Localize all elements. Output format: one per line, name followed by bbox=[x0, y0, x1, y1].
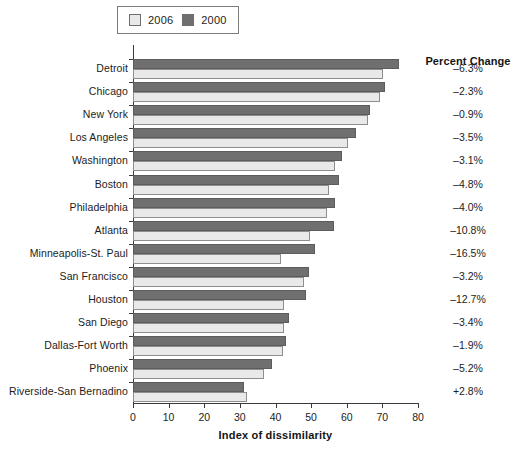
bar-2000 bbox=[133, 105, 370, 115]
percent-change-value: –4.0% bbox=[420, 201, 516, 213]
x-axis-tick-label: 80 bbox=[412, 411, 424, 423]
bar-group bbox=[133, 267, 418, 287]
percent-change-value: –4.8% bbox=[420, 178, 516, 190]
x-axis-tick bbox=[311, 403, 312, 408]
bar-2000 bbox=[133, 244, 315, 254]
legend-label-2006: 2006 bbox=[148, 14, 173, 26]
category-label: Riverside-San Bernadino bbox=[3, 385, 128, 397]
x-axis-tick bbox=[418, 403, 419, 408]
category-label: Detroit bbox=[3, 62, 128, 74]
percent-change-value: –6.3% bbox=[420, 62, 516, 74]
legend-entry-2000: 2000 bbox=[182, 14, 226, 26]
category-label: Atlanta bbox=[3, 224, 128, 236]
x-axis-tick bbox=[382, 403, 383, 408]
percent-change-value: –0.9% bbox=[420, 108, 516, 120]
category-label: San Diego bbox=[3, 316, 128, 328]
x-axis-tick-label: 0 bbox=[130, 411, 136, 423]
percent-change-column: Percent Change –6.3%–2.3%–0.9%–3.5%–3.1%… bbox=[420, 45, 518, 403]
category-label: Los Angeles bbox=[3, 131, 128, 143]
category-label: Minneapolis-St. Paul bbox=[3, 247, 128, 259]
bar-2006 bbox=[133, 115, 368, 125]
percent-change-value: –3.1% bbox=[420, 154, 516, 166]
legend-entry-2006: 2006 bbox=[129, 14, 173, 26]
percent-change-value: –3.2% bbox=[420, 270, 516, 282]
x-axis-tick-label: 70 bbox=[377, 411, 389, 423]
bar-group bbox=[133, 244, 418, 264]
bar-2006 bbox=[133, 185, 329, 195]
bar-2000 bbox=[133, 221, 334, 231]
bar-2006 bbox=[133, 323, 284, 333]
percent-change-value: –10.8% bbox=[420, 224, 516, 236]
bar-group bbox=[133, 336, 418, 356]
x-axis-title: Index of dissimilarity bbox=[133, 429, 418, 441]
category-label: New York bbox=[3, 108, 128, 120]
bar-2006 bbox=[133, 138, 348, 148]
bar-group bbox=[133, 313, 418, 333]
x-axis-tick-label: 30 bbox=[234, 411, 246, 423]
bar-group bbox=[133, 221, 418, 241]
bar-group bbox=[133, 290, 418, 310]
legend-swatch-2006 bbox=[129, 14, 141, 26]
bar-2000 bbox=[133, 336, 286, 346]
bar-2006 bbox=[133, 161, 335, 171]
bar-2006 bbox=[133, 392, 247, 402]
x-axis-tick-label: 20 bbox=[198, 411, 210, 423]
x-axis-tick bbox=[133, 403, 134, 408]
x-axis-tick-label: 40 bbox=[270, 411, 282, 423]
bar-2000 bbox=[133, 267, 309, 277]
chart-legend: 20062000 bbox=[117, 6, 239, 34]
bar-2006 bbox=[133, 254, 281, 264]
bar-2006 bbox=[133, 231, 310, 241]
category-label: San Francisco bbox=[3, 270, 128, 282]
percent-change-value: –3.4% bbox=[420, 316, 516, 328]
bar-2006 bbox=[133, 69, 383, 79]
bar-2006 bbox=[133, 208, 327, 218]
category-label: Houston bbox=[3, 293, 128, 305]
bar-group bbox=[133, 59, 418, 79]
bar-group bbox=[133, 382, 418, 402]
bar-2000 bbox=[133, 128, 356, 138]
bar-2000 bbox=[133, 59, 399, 69]
bar-2006 bbox=[133, 92, 380, 102]
segregation-index-bar-chart: 20062000 DetroitChicagoNew YorkLos Angel… bbox=[0, 0, 518, 452]
percent-change-value: –3.5% bbox=[420, 131, 516, 143]
percent-change-value: –12.7% bbox=[420, 293, 516, 305]
bar-2000 bbox=[133, 151, 342, 161]
bar-group bbox=[133, 359, 418, 379]
category-label: Dallas-Fort Worth bbox=[3, 339, 128, 351]
bar-2006 bbox=[133, 277, 304, 287]
bar-2000 bbox=[133, 198, 335, 208]
category-axis-labels: DetroitChicagoNew YorkLos AngelesWashing… bbox=[0, 45, 128, 403]
x-axis-tick bbox=[276, 403, 277, 408]
bar-group bbox=[133, 128, 418, 148]
bar-2006 bbox=[133, 300, 284, 310]
legend-swatch-2000 bbox=[182, 14, 194, 26]
bar-2000 bbox=[133, 313, 289, 323]
category-label: Philadelphia bbox=[3, 201, 128, 213]
x-axis-tick bbox=[347, 403, 348, 408]
category-label: Chicago bbox=[3, 85, 128, 97]
percent-change-value: –2.3% bbox=[420, 85, 516, 97]
bar-group bbox=[133, 198, 418, 218]
bar-2000 bbox=[133, 175, 339, 185]
x-axis-tick-label: 10 bbox=[163, 411, 175, 423]
percent-change-value: –5.2% bbox=[420, 362, 516, 374]
percent-change-value: –16.5% bbox=[420, 247, 516, 259]
bar-2000 bbox=[133, 382, 244, 392]
bar-group bbox=[133, 82, 418, 102]
x-axis-tick bbox=[204, 403, 205, 408]
bar-2000 bbox=[133, 290, 306, 300]
plot-area: 01020304050607080 bbox=[133, 45, 418, 403]
percent-change-value: +2.8% bbox=[420, 385, 516, 397]
percent-change-value: –1.9% bbox=[420, 339, 516, 351]
bar-2000 bbox=[133, 359, 272, 369]
bar-2000 bbox=[133, 82, 385, 92]
bar-group bbox=[133, 151, 418, 171]
x-axis-tick-label: 60 bbox=[341, 411, 353, 423]
category-label: Phoenix bbox=[3, 362, 128, 374]
category-label: Boston bbox=[3, 178, 128, 190]
x-axis-tick bbox=[240, 403, 241, 408]
bar-group bbox=[133, 175, 418, 195]
bar-2006 bbox=[133, 346, 283, 356]
bar-2006 bbox=[133, 369, 264, 379]
